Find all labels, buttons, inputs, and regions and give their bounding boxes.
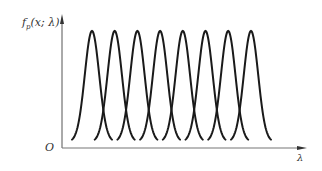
- origin-label: O: [45, 142, 54, 153]
- x-axis-label: λ: [297, 153, 303, 163]
- bell-curves: [72, 31, 271, 140]
- y-axis-arrow-icon: [60, 14, 64, 24]
- x-axis-arrow-icon: [297, 146, 307, 150]
- y-axis-label: fp(x; λ): [22, 17, 60, 31]
